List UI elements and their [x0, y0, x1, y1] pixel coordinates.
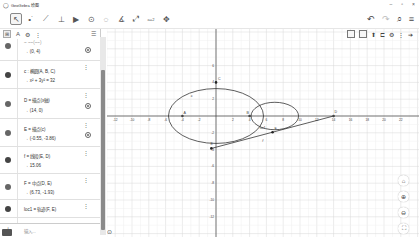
list-item[interactable]: f = 线段(E, D) → 15.06 ⋮	[0, 147, 101, 174]
list-item[interactable]: E = 描点(c) → (-0.55, -3.86) ⋮	[0, 119, 101, 147]
visibility-dot[interactable]	[5, 206, 11, 212]
view-toggle-1[interactable]	[347, 30, 355, 38]
svg-text:-4: -4	[181, 118, 184, 122]
segment-tool[interactable]: ⟋	[40, 13, 52, 25]
maximize-button[interactable]: ▫	[401, 1, 403, 7]
fullscreen-icon: ⛶	[402, 225, 406, 232]
svg-text:-6: -6	[164, 118, 167, 122]
pin-icon[interactable]: ⬆	[371, 31, 376, 38]
close-button[interactable]: ×	[412, 1, 415, 7]
visibility-dot[interactable]	[5, 101, 11, 107]
item-menu-icon[interactable]: ⋮	[83, 202, 89, 209]
reflect-icon: ⤢	[133, 14, 139, 24]
show-hide-icon[interactable]	[85, 132, 91, 138]
algebra-input[interactable]: + 输入...	[0, 223, 101, 237]
svg-text:loc1: loc1	[260, 126, 266, 130]
visibility-dot[interactable]	[5, 130, 11, 136]
svg-text:-2: -2	[198, 118, 201, 122]
algebra-header: ⊞ A ⚙ ⋮ ☰	[0, 29, 100, 39]
item-menu-icon[interactable]: ⋮	[83, 91, 89, 98]
show-hide-icon[interactable]	[85, 47, 91, 53]
list-item[interactable]: D = 描点(x轴) → (14, 0) ⋮	[0, 89, 101, 119]
svg-text:16: 16	[349, 118, 353, 122]
circle-three-points-tool[interactable]: ◌	[100, 13, 112, 25]
graphics-canvas[interactable]: -12-10-8-6-4-2246810121416182022642-2-4-…	[107, 29, 419, 237]
svg-text:6: 6	[212, 64, 214, 68]
slider-tool[interactable]: a=2	[145, 13, 157, 25]
item-menu-icon[interactable]: ⋮	[83, 63, 89, 70]
arrow-icon[interactable]: ➔	[408, 31, 413, 38]
zoom-in-button[interactable]: ⊕	[398, 191, 409, 202]
view-toggle-2[interactable]	[359, 30, 367, 38]
settings-circle-icon[interactable]: ⊙	[107, 228, 112, 235]
fullscreen-button[interactable]: ⛶	[398, 223, 409, 234]
circle-points-icon: ◌	[104, 15, 109, 24]
zoom-out-icon: ⊖	[401, 209, 406, 216]
polygon-tool[interactable]: ▶	[70, 13, 82, 25]
move-graphics-tool[interactable]: ✥	[160, 13, 172, 25]
toolbar: ↖ •˙ ⟋ ⊥ ▶ ⊙ ◌ ∡ ⤢ a=2 ✥ ↶ ↷ ⌕ ≡	[0, 10, 419, 29]
list-item[interactable]: F = 中点(D, E) → (6.73, -1.93) ⋮	[0, 174, 101, 200]
perpendicular-icon: ⊥	[58, 15, 65, 24]
svg-text:A: A	[183, 111, 186, 115]
svg-text:2: 2	[212, 97, 214, 101]
sort-icon[interactable]: ☰	[91, 30, 96, 37]
item-menu-icon[interactable]: ⋮	[83, 121, 89, 128]
visibility-dot[interactable]	[5, 184, 11, 190]
list-item[interactable]: ~ ~~(~~) → (0, 4)	[0, 39, 101, 61]
minimize-button[interactable]: –	[390, 1, 393, 7]
home-icon: ⌂	[402, 178, 406, 184]
svg-text:-12: -12	[209, 215, 214, 219]
visibility-dot[interactable]	[5, 157, 11, 163]
svg-text:-6: -6	[211, 164, 214, 168]
graphics-view[interactable]: -12-10-8-6-4-2246810121416182022642-2-4-…	[107, 29, 419, 237]
settings-icon[interactable]: ⚙	[25, 31, 30, 38]
svg-text:18: 18	[365, 118, 369, 122]
reflect-tool[interactable]: ⤢	[130, 13, 142, 25]
cursor-icon: ↖	[13, 15, 20, 24]
scrollbar-thumb[interactable]	[101, 70, 105, 230]
angle-tool[interactable]: ∡	[115, 13, 127, 25]
svg-text:-8: -8	[211, 181, 214, 185]
undo-button[interactable]: ↶	[367, 14, 375, 25]
algebra-icon[interactable]: ⊞	[3, 30, 11, 38]
svg-text:20: 20	[382, 118, 386, 122]
more-icon[interactable]: ⋮	[35, 31, 41, 38]
circle-tool[interactable]: ⊙	[85, 13, 97, 25]
zoom-out-button[interactable]: ⊖	[398, 207, 409, 218]
list-item[interactable]: c : 椭圆(A, B, C) → x² + 3y² = 32 ⋮	[0, 61, 101, 89]
search-button[interactable]: ⌕	[397, 14, 402, 25]
point-tool[interactable]: •˙	[25, 13, 37, 25]
svg-text:-10: -10	[130, 118, 135, 122]
visibility-dot[interactable]	[5, 72, 11, 78]
algebra-scrollbar[interactable]	[100, 37, 106, 235]
svg-text:14: 14	[332, 118, 336, 122]
algebra-list: ~ ~~(~~) → (0, 4) c : 椭圆(A, B, C) → x² +…	[0, 39, 101, 237]
visibility-dot[interactable]	[5, 43, 11, 49]
gear-icon[interactable]: ⚙	[389, 31, 394, 38]
perpendicular-tool[interactable]: ⊥	[55, 13, 67, 25]
show-hide-icon[interactable]	[85, 103, 91, 109]
graph-icon[interactable]: ⊏	[380, 31, 385, 38]
svg-text:8: 8	[282, 118, 284, 122]
menu-button[interactable]: ≡	[409, 14, 414, 25]
svg-text:-2: -2	[211, 131, 214, 135]
list-item[interactable]: loc1 = 轨迹(F, E) ⋮	[0, 200, 101, 218]
segment-icon: ⟋	[43, 14, 49, 24]
more-icon[interactable]: ⋮	[398, 31, 404, 38]
move-tool[interactable]: ↖	[10, 13, 22, 25]
keyboard-icon[interactable]	[2, 229, 12, 236]
polygon-icon: ▶	[73, 15, 79, 24]
item-menu-icon[interactable]: ⋮	[83, 176, 89, 183]
item-menu-icon[interactable]: ⋮	[83, 149, 89, 156]
angle-icon: ∡	[118, 15, 125, 24]
tools-icon[interactable]: A	[16, 31, 20, 37]
svg-text:C: C	[218, 77, 221, 81]
svg-text:22: 22	[399, 118, 403, 122]
svg-text:-12: -12	[113, 118, 118, 122]
circle-icon: ⊙	[88, 15, 95, 24]
redo-button[interactable]: ↷	[382, 14, 390, 25]
title-bar: ◯ GeoGebra 绘图 – ▫ ×	[0, 0, 419, 10]
home-button[interactable]: ⌂	[398, 175, 409, 186]
slider-icon: a=2	[148, 17, 155, 22]
